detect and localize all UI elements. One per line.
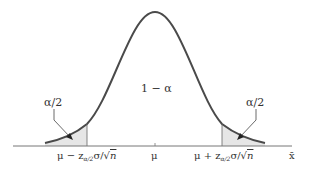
left-leader-line (54, 109, 70, 137)
left-tail-shade (45, 124, 87, 146)
right-bound-label: μ + zα/2σ/√n (194, 150, 253, 162)
center-label: 1 − α (141, 82, 172, 95)
left-bound-label: μ − zα/2σ/√n (57, 150, 116, 162)
bell-curve (45, 12, 265, 143)
right-leader-line (240, 109, 256, 137)
mean-label: μ (151, 150, 158, 161)
right-tail-shade (222, 124, 265, 146)
right-tail-label: α/2 (246, 96, 264, 109)
left-tail-label: α/2 (44, 96, 62, 109)
axis-variable-label: x̄ (289, 150, 295, 161)
